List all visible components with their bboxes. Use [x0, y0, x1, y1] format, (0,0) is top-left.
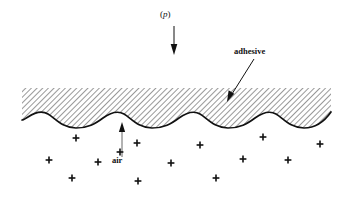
air-marker — [69, 175, 76, 182]
diagram-canvas — [0, 0, 351, 199]
air-label: air — [112, 156, 122, 165]
adhesive-hatched-region — [20, 86, 333, 132]
air-marker — [285, 157, 292, 164]
pressure-paren-close: ) — [168, 9, 171, 19]
air-marker — [260, 134, 267, 141]
air-marker — [197, 142, 204, 149]
air-marker-group — [46, 134, 324, 185]
air-marker — [240, 156, 247, 163]
air-marker — [73, 135, 80, 142]
adhesive-label: adhesive — [234, 47, 265, 56]
air-marker — [95, 159, 102, 166]
air-marker — [213, 175, 220, 182]
air-marker — [317, 141, 324, 148]
adhesive-air-diagram: (p) adhesive air — [0, 0, 351, 199]
pressure-label: (p) — [160, 10, 171, 19]
air-marker — [134, 140, 141, 147]
air-marker — [46, 157, 53, 164]
air-marker — [135, 178, 142, 185]
pressure-arrow — [171, 26, 178, 55]
air-marker — [168, 160, 175, 167]
